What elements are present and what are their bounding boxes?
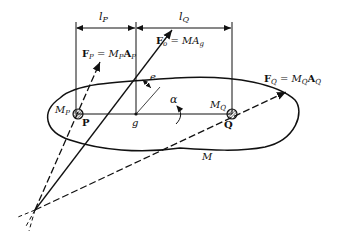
label-Q: Q — [224, 119, 233, 130]
rigid-body-force-diagram: lP lQ FP = MPAP Fo = MAg FQ = MQAQ MP MQ… — [0, 0, 338, 241]
label-lQ: lQ — [179, 10, 190, 24]
label-e: e — [150, 71, 156, 82]
label-lP: lP — [99, 10, 109, 24]
force-FP-line — [35, 62, 100, 210]
label-P: P — [82, 117, 90, 128]
label-g: g — [132, 117, 138, 128]
force-FQ-line — [35, 92, 286, 210]
label-alpha: α — [170, 93, 178, 106]
diagram-canvas: lP lQ FP = MPAP Fo = MAg FQ = MQAQ MP MQ… — [0, 0, 338, 241]
extension-line-2 — [25, 210, 35, 228]
label-FP-equation: FP = MPAP — [82, 48, 136, 61]
offset-e-line — [137, 87, 160, 113]
label-MQ: MQ — [209, 99, 226, 112]
label-Fo-equation: Fo = MAg — [156, 35, 205, 48]
extension-line-3 — [29, 210, 35, 231]
mass-Q — [227, 109, 237, 119]
alpha-arc — [176, 106, 181, 124]
extension-lines — [18, 210, 35, 217]
label-MP: MP — [54, 104, 70, 117]
label-M: M — [201, 151, 213, 162]
label-FQ-equation: FQ = MQAQ — [264, 73, 321, 86]
point-g — [134, 112, 137, 115]
